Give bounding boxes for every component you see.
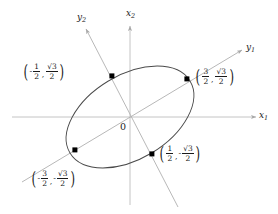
coord-x-numerator: 1 — [167, 145, 174, 153]
axis-label-x1-subscript: 1 — [264, 114, 268, 122]
coord-x-numerator: 1 — [33, 63, 40, 71]
coord-y-fraction: √3 2 — [182, 145, 195, 162]
ellipse-diagram: y2 x2 y1 x1 0 ( - 1 2 , √3 2 ) ( 3 — [0, 0, 278, 214]
coord-comma: , — [41, 71, 46, 80]
coord-y-numerator: √3 — [215, 68, 227, 76]
coord-label-upper-right: ( 3 2 , √3 2 ) — [194, 68, 235, 85]
coord-y-numerator: √3 — [57, 170, 69, 178]
coord-label-upper-left: ( - 1 2 , √3 2 ) — [22, 63, 66, 80]
paren-close: ) — [70, 171, 75, 187]
coord-x-fraction: 1 2 — [33, 63, 41, 80]
coord-y-fraction: √3 2 — [46, 63, 59, 80]
axis-label-x2: x2 — [126, 9, 135, 19]
coord-x-numerator: 3 — [41, 170, 48, 178]
coord-x-fraction: 1 2 — [166, 145, 174, 162]
paren-open: ( — [195, 69, 200, 85]
coord-y-denominator: 2 — [59, 180, 66, 188]
data-point-upper-left — [109, 73, 114, 78]
coord-y-denominator: 2 — [49, 73, 56, 81]
coord-y-denominator: 2 — [218, 78, 225, 86]
axis-y2-line — [86, 29, 178, 207]
coord-y-numerator: √3 — [182, 145, 194, 153]
data-point-lower-right — [149, 151, 154, 156]
coord-x-denominator: 2 — [167, 155, 174, 163]
origin-label: 0 — [120, 122, 126, 132]
coord-x-fraction: 3 2 — [41, 170, 49, 187]
paren-close: ) — [229, 69, 234, 85]
paren-open: ( — [23, 64, 28, 80]
axis-label-y2: y2 — [77, 13, 86, 23]
coord-y-fraction: √3 2 — [56, 170, 69, 187]
axis-label-y1: y1 — [246, 43, 255, 53]
data-point-lower-left — [72, 147, 77, 152]
coord-x-denominator: 2 — [203, 78, 210, 86]
coord-y-fraction: √3 2 — [215, 68, 228, 85]
coord-x-denominator: 2 — [41, 180, 48, 188]
coord-label-lower-left: ( - 3 2 , - √3 2 ) — [30, 170, 76, 187]
paren-open: ( — [159, 146, 164, 162]
axis-label-x2-subscript: 2 — [131, 12, 135, 20]
coord-y-numerator: √3 — [46, 63, 58, 71]
coord-x-denominator: 2 — [33, 73, 40, 81]
paren-close: ) — [196, 146, 201, 162]
paren-open: ( — [31, 171, 36, 187]
data-point-upper-right — [184, 76, 189, 81]
paren-close: ) — [60, 64, 65, 80]
axis-label-x1: x1 — [259, 111, 268, 121]
coord-x-fraction: 3 2 — [202, 68, 210, 85]
coord-x-numerator: 3 — [203, 68, 210, 76]
axis-label-y1-subscript: 1 — [251, 46, 255, 54]
axis-label-y2-subscript: 2 — [82, 16, 86, 24]
coord-label-lower-right: ( 1 2 , - √3 2 ) — [158, 145, 202, 162]
coord-y-denominator: 2 — [185, 155, 192, 163]
coord-comma: , — [210, 76, 215, 85]
